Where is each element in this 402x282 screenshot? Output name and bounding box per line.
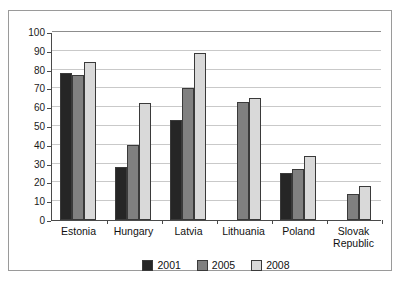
bar (292, 169, 304, 220)
x-axis-category-label: Hungary (106, 225, 161, 237)
legend-label: 2008 (266, 260, 289, 271)
legend-swatch-icon (251, 260, 262, 271)
y-axis-tick-label: 90 (15, 47, 45, 57)
x-axis-category-label: Poland (271, 225, 326, 237)
bar (304, 156, 316, 220)
y-axis-tick-label: 40 (15, 141, 45, 151)
x-axis-tick-mark (162, 220, 163, 224)
legend-swatch-icon (197, 260, 208, 271)
plot-area (51, 33, 381, 221)
legend-entry: 2008 (251, 260, 289, 271)
y-axis-tick-label: 60 (15, 103, 45, 113)
y-axis-tick-mark (47, 33, 51, 34)
bar (359, 186, 371, 220)
legend-label: 2005 (212, 260, 235, 271)
x-axis-tick-mark (272, 220, 273, 224)
y-axis-tick-label: 10 (15, 197, 45, 207)
bar (115, 167, 127, 220)
bar (194, 53, 206, 220)
legend-label: 2001 (157, 260, 180, 271)
y-axis-tick-mark (47, 146, 51, 147)
y-axis-tick-label: 20 (15, 178, 45, 188)
y-axis-tick-label: 30 (15, 160, 45, 170)
bar (249, 98, 261, 220)
bar (60, 73, 72, 220)
y-axis-tick-mark (47, 52, 51, 53)
y-axis-tick-label: 100 (15, 28, 45, 38)
x-axis-tick-mark (327, 220, 328, 224)
x-axis-tick-mark (107, 220, 108, 224)
y-axis-tick-mark (47, 165, 51, 166)
chart-figure: 0102030405060708090100 EstoniaHungaryLat… (0, 0, 402, 282)
y-axis-tick-mark (47, 71, 51, 72)
bar (280, 173, 292, 220)
legend-swatch-icon (142, 260, 153, 271)
y-axis-tick-label: 50 (15, 122, 45, 132)
x-axis-tick-mark (382, 220, 383, 224)
bar (72, 75, 84, 220)
x-axis-category-label: Slovak Republic (326, 225, 381, 249)
gridline (52, 31, 381, 32)
figure-border: 0102030405060708090100 EstoniaHungaryLat… (8, 10, 392, 271)
bars-layer (52, 33, 381, 220)
bar (237, 102, 249, 220)
legend-entry: 2005 (197, 260, 235, 271)
y-axis-tick-mark (47, 221, 51, 222)
y-axis-tick-label: 0 (15, 216, 45, 226)
bar (84, 62, 96, 220)
bar (170, 120, 182, 220)
y-axis-tick-mark (47, 127, 51, 128)
x-axis-category-label: Estonia (51, 225, 106, 237)
bar (347, 194, 359, 220)
x-axis-tick-mark (217, 220, 218, 224)
y-axis-tick-mark (47, 108, 51, 109)
y-axis-tick-label: 80 (15, 66, 45, 76)
chart-legend: 200120052008 (51, 257, 381, 273)
bar (182, 88, 194, 220)
y-axis-tick-mark (47, 89, 51, 90)
y-axis-tick-label: 70 (15, 84, 45, 94)
legend-entry: 2001 (142, 260, 180, 271)
bar (127, 145, 139, 220)
x-axis-category-label: Lithuania (216, 225, 271, 237)
x-axis-category-label: Latvia (161, 225, 216, 237)
bar (139, 103, 151, 220)
y-axis-tick-mark (47, 202, 51, 203)
y-axis-tick-mark (47, 183, 51, 184)
